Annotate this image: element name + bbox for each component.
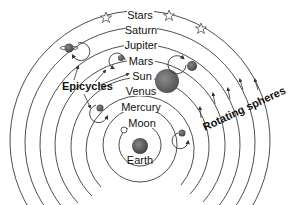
label-moon: Moon	[128, 117, 156, 129]
label-jupiter: Jupiter	[124, 39, 157, 51]
star-icon	[164, 10, 175, 21]
label-saturn: Saturn	[125, 24, 157, 36]
label-sun: Sun	[132, 70, 152, 82]
geocentric-diagram: Stars Saturn Jupiter Mars Sun Venus Merc…	[0, 0, 293, 205]
jupiter-icon	[187, 61, 197, 71]
sun-icon	[155, 69, 179, 93]
star-icon	[196, 23, 207, 34]
label-venus: Venus	[126, 85, 157, 97]
epicycles-label: Epicycles	[62, 80, 113, 92]
venus-icon	[97, 105, 104, 112]
saturn-icon	[65, 44, 74, 53]
label-mars: Mars	[129, 55, 154, 67]
mercury-icon	[179, 130, 186, 137]
sphere-labels: Stars Saturn Jupiter Mars Sun Venus Merc…	[120, 9, 163, 129]
rotating-spheres-label: Rotating spheres	[201, 84, 288, 133]
label-earth: Earth	[127, 154, 153, 166]
star-icon	[101, 12, 112, 23]
mars-icon	[118, 55, 124, 61]
moon-icon	[121, 127, 127, 133]
label-mercury: Mercury	[121, 101, 161, 113]
label-stars: Stars	[127, 9, 153, 21]
earth-icon	[132, 138, 148, 154]
